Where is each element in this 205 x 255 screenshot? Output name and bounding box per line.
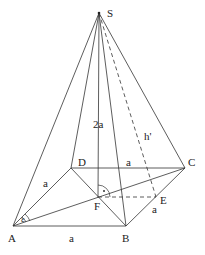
label-S: S [107,7,113,19]
pyramid-diagram: S A B C D F E 2a h' a a a a ε [0,0,205,255]
label-side-AB: a [69,232,74,244]
label-A: A [8,232,16,244]
edge-SA [13,13,99,226]
label-B: B [122,232,129,244]
label-slant-height: h' [144,130,152,142]
angle-epsilon-arc-outer [25,214,30,221]
label-D: D [78,156,86,168]
label-C: C [188,156,195,168]
label-angle-epsilon: ε [21,214,25,224]
slant-height-SE [99,13,156,197]
edge-SC [99,13,185,168]
edge-SD [71,13,99,168]
label-E: E [160,194,167,206]
right-angle-dot [103,190,105,192]
label-side-AD: a [43,177,48,189]
apex-dot [98,12,101,15]
label-height: 2a [93,118,104,130]
label-side-BC: a [152,203,157,215]
label-F: F [94,200,100,212]
height-SF [98,13,99,197]
label-side-DC: a [126,156,131,168]
